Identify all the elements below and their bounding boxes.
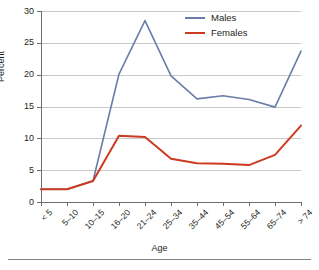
legend-label-females: Females <box>211 28 247 38</box>
y-tick-label: 30 <box>12 7 34 16</box>
figure: 051015202530 < 55–1010–1516–2021–2425–34… <box>0 0 319 270</box>
y-axis-title: Percent <box>0 51 6 82</box>
series-line-females <box>41 126 301 190</box>
y-tick-label: 5 <box>12 166 34 175</box>
series-line-males <box>41 21 301 190</box>
legend-item-males: Males <box>185 12 247 23</box>
legend-swatch-males <box>185 17 205 19</box>
y-tick-label: 25 <box>12 38 34 47</box>
caption-fragment <box>10 262 50 269</box>
chart-plot: 051015202530 < 55–1010–1516–2021–2425–34… <box>0 0 319 215</box>
caption-divider <box>8 259 311 260</box>
legend-label-males: Males <box>211 13 236 23</box>
x-axis-line <box>41 202 302 203</box>
chart-legend: Males Females <box>185 12 247 38</box>
data-series-layer <box>41 11 301 202</box>
x-axis-title: Age <box>0 244 319 253</box>
y-tick-label: 20 <box>12 70 34 79</box>
y-tick-label: 10 <box>12 134 34 143</box>
legend-swatch-females <box>185 32 205 34</box>
y-tick-label: 0 <box>12 198 34 207</box>
legend-item-females: Females <box>185 27 247 38</box>
y-tick-label: 15 <box>12 102 34 111</box>
